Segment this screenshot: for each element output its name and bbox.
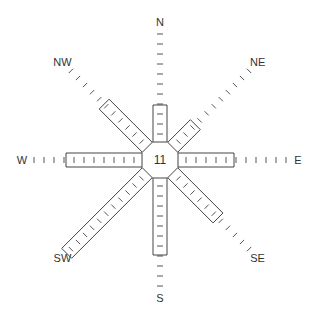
direction-label-s: S [156,292,163,304]
tick-mark [205,111,209,115]
tick-mark [219,97,223,101]
tick-mark [69,69,73,73]
bar-e [176,153,234,167]
direction-label-n: N [156,16,164,28]
direction-label-nw: NW [53,56,72,68]
bar-se [166,166,223,223]
direction-label-w: W [17,154,28,166]
tick-mark [247,69,251,73]
tick-mark [240,76,244,80]
direction-label-sw: SW [54,252,72,264]
tick-mark [247,247,251,251]
tick-mark [219,219,223,223]
tick-mark [197,118,201,122]
direction-bars [62,99,234,258]
direction-label-ne: NE [250,56,265,68]
tick-mark [212,104,216,108]
tick-mark [226,90,230,94]
tick-mark [226,226,230,230]
calm-value: 11 [154,153,167,167]
tick-mark [90,90,94,94]
direction-label-e: E [294,154,301,166]
tick-mark [240,240,244,244]
tick-mark [233,233,237,237]
tick-mark [233,83,237,87]
tick-mark [76,76,80,80]
direction-label-se: SE [250,252,265,264]
wind-rose: NNEESESSWWNW 11 [0,0,316,314]
tick-mark [83,83,87,87]
bar-sw [62,166,154,258]
bar-w [66,153,144,167]
bar-nw [99,99,153,153]
tick-mark [97,97,101,101]
